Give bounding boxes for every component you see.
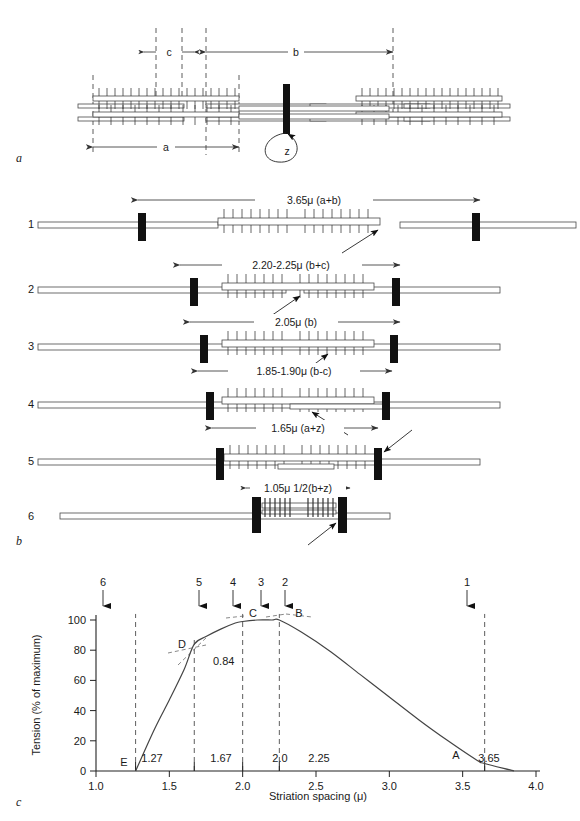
- row-dimension-6: 1.05μ 1/2(b+z): [264, 482, 332, 494]
- z-disc: [374, 448, 382, 480]
- z-disc: [382, 392, 390, 420]
- chart-axes: [96, 615, 540, 771]
- x-tick-label: 1.5: [162, 780, 177, 792]
- panel-b-row-1: 1 3.65μ (a+b): [28, 192, 576, 253]
- y-axis-label: Tension (% of maximum): [30, 634, 42, 755]
- chart-arrow-3: 3: [258, 576, 264, 606]
- dimension-b: b: [206, 44, 393, 59]
- pointer-arrow-5: [384, 430, 412, 452]
- arrow-label-1: 1: [464, 576, 470, 588]
- x-axis-ticks: 1.01.52.02.53.03.54.0: [88, 771, 543, 792]
- point-label-A: A: [452, 749, 460, 761]
- row-dimension-1: 3.65μ (a+b): [287, 194, 341, 206]
- marker-value-225: 2.25: [308, 752, 329, 764]
- arrow-label-6: 6: [100, 576, 106, 588]
- panel-a-label-z: z: [284, 145, 289, 157]
- x-tick-label: 4.0: [528, 780, 543, 792]
- y-tick-label: 80: [74, 644, 86, 656]
- chart-point-labels: E D C B A 0.84: [120, 607, 460, 768]
- chart-top-arrows: 6 5 4 3 2 1: [100, 576, 470, 606]
- chart-inline-values: 1.27 1.67 2.0 2.25 3.65: [141, 752, 499, 764]
- point-label-E: E: [120, 756, 127, 768]
- panel-b: 1 3.65μ (a+b): [16, 192, 576, 548]
- figure-sarcomere-length-tension: c b: [0, 0, 580, 821]
- x-tick-label: 1.0: [88, 780, 103, 792]
- x-tick-label: 3.0: [382, 780, 397, 792]
- panel-a-construction-lines: [93, 28, 393, 155]
- y-tick-label: 20: [74, 735, 86, 747]
- chart-arrow-4: 4: [230, 576, 236, 606]
- z-disc: [472, 213, 480, 241]
- y-tick-label: 40: [74, 705, 86, 717]
- panel-b-row-6: 6 1.05μ 1/2(b+z): [28, 480, 390, 545]
- row-number-4: 4: [28, 398, 34, 410]
- marker-value-365: 3.65: [478, 752, 499, 764]
- panel-letter-b: b: [16, 534, 22, 548]
- dimension-c: c: [144, 46, 194, 58]
- panel-a-filaments: [78, 84, 510, 134]
- inflection-value-label: 0.84: [213, 655, 234, 667]
- arrow-label-4: 4: [230, 576, 236, 588]
- row-dimension-2: 2.20-2.25μ (b+c): [252, 259, 330, 271]
- arrow-label-2: 2: [282, 576, 288, 588]
- z-disc-a: [283, 84, 290, 134]
- y-tick-label: 60: [74, 674, 86, 686]
- marker-value-167: 1.67: [210, 752, 231, 764]
- arrow-label-5: 5: [196, 576, 202, 588]
- y-tick-label: 0: [80, 765, 86, 777]
- row-number-2: 2: [28, 283, 34, 295]
- y-axis-ticks: 020406080100: [68, 614, 96, 777]
- row-dimension-3: 2.05μ (b): [275, 316, 317, 328]
- panel-letter-a: a: [16, 151, 22, 165]
- row-number-3: 3: [28, 340, 34, 352]
- x-tick-label: 2.0: [235, 780, 250, 792]
- panel-a-label-a: a: [163, 141, 169, 153]
- chart-arrow-5: 5: [196, 576, 202, 606]
- y-tick-label: 100: [68, 614, 86, 626]
- panel-a-label-b: b: [293, 46, 299, 58]
- row-dimension-5: 1.65μ (a+z): [271, 422, 325, 434]
- panel-a-label-c: c: [166, 46, 171, 58]
- figure-canvas: c b: [0, 0, 580, 821]
- point-label-C: C: [249, 607, 257, 619]
- panel-c-chart: 6 5 4 3 2 1 Te: [16, 576, 544, 809]
- chart-arrow-1: 1: [464, 576, 470, 606]
- z-disc: [216, 448, 224, 480]
- x-axis-label: Striation spacing (μ): [269, 790, 367, 802]
- pointer-arrow-1: [342, 230, 378, 253]
- z-disc: [200, 335, 208, 363]
- row-number-1: 1: [28, 218, 34, 230]
- panel-letter-c: c: [16, 795, 22, 809]
- z-disc: [392, 278, 400, 306]
- row-dimension-4: 1.85-1.90μ (b-c): [257, 365, 332, 377]
- row-number-5: 5: [28, 455, 34, 467]
- point-label-B: B: [295, 607, 302, 619]
- dimension-a: a: [93, 139, 239, 154]
- x-tick-label: 3.5: [455, 780, 470, 792]
- annotation-z: z: [265, 133, 297, 162]
- panel-b-row-5: 5 1.65μ (a+z): [28, 420, 480, 480]
- z-disc: [190, 278, 198, 306]
- panel-b-row-2: 2 2.20-2.25μ (b+c): [28, 257, 500, 318]
- marker-value-20: 2.0: [272, 752, 287, 764]
- z-disc: [138, 213, 146, 241]
- row-number-6: 6: [28, 510, 34, 522]
- chart-arrow-2: 2: [282, 576, 288, 606]
- point-label-D: D: [178, 638, 186, 650]
- marker-value-127: 1.27: [141, 752, 162, 764]
- panel-a: c b: [16, 28, 510, 165]
- z-disc: [338, 497, 347, 533]
- z-disc: [252, 497, 261, 533]
- z-disc: [390, 335, 398, 363]
- arrow-label-3: 3: [258, 576, 264, 588]
- z-disc: [206, 392, 214, 420]
- pointer-arrow-6: [308, 523, 336, 545]
- chart-arrow-6: 6: [100, 576, 106, 606]
